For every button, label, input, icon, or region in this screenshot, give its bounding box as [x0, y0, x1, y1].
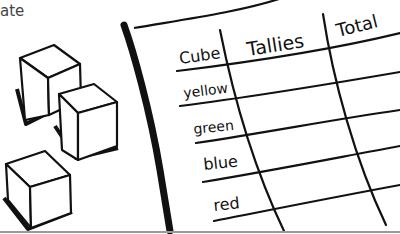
- row-label-red: red: [212, 193, 240, 215]
- cube-icon: [55, 84, 118, 160]
- row-label-blue: blue: [202, 151, 238, 174]
- tally-illustration: Cube Tallies Total yellow green blue red: [0, 0, 400, 234]
- bottom-divider: [0, 231, 400, 233]
- cube-icon: [4, 151, 72, 229]
